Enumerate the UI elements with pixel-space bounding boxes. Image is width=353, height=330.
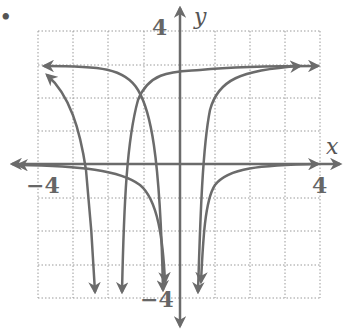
- y-axis-label: y: [194, 4, 206, 29]
- curves: [18, 66, 318, 292]
- curve-a: [44, 66, 163, 290]
- y-min-label: −4: [140, 286, 174, 312]
- graph-canvas: [0, 0, 353, 330]
- curve-f: [201, 164, 318, 282]
- x-axis-label: x: [326, 134, 338, 159]
- x-min-label: −4: [26, 172, 60, 198]
- x-max-label: 4: [312, 172, 327, 198]
- y-max-label: 4: [152, 14, 167, 40]
